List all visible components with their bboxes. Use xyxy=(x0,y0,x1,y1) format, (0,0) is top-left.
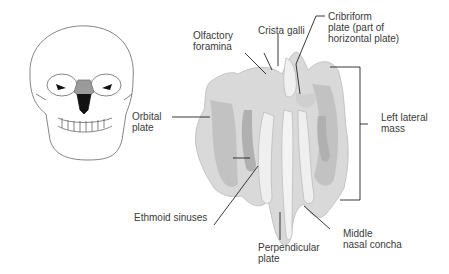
label-line: Cribriform xyxy=(328,11,399,22)
label-line: Orbital xyxy=(132,111,161,122)
label-line: nasal concha xyxy=(343,239,402,250)
label-ethmoid-sinuses: Ethmoid sinuses xyxy=(134,212,207,223)
label-line: horizontal plate) xyxy=(328,33,399,44)
label-cribriform-plate: Cribriform plate (part of horizontal pla… xyxy=(328,11,399,44)
label-line: Crista galli xyxy=(258,25,305,36)
label-orbital-plate: Orbital plate xyxy=(132,111,161,133)
label-perpendicular-plate: Perpendicular plate xyxy=(258,242,320,264)
label-olfactory-foramina: Olfactory foramina xyxy=(193,30,233,52)
label-line: plate (part of xyxy=(328,22,399,33)
label-line: Left lateral xyxy=(381,112,428,123)
label-line: Olfactory xyxy=(193,30,233,41)
label-line: plate xyxy=(258,253,320,264)
label-middle-nasal-concha: Middle nasal concha xyxy=(343,228,402,250)
label-line: Ethmoid sinuses xyxy=(134,212,207,223)
ethmoid-bone-illustration xyxy=(195,52,348,245)
label-line: Perpendicular xyxy=(258,242,320,253)
label-left-lateral-mass: Left lateral mass xyxy=(381,112,428,134)
skull-thumbnail-icon xyxy=(30,26,133,160)
label-line: Middle xyxy=(343,228,402,239)
label-crista-galli: Crista galli xyxy=(258,25,305,36)
label-line: mass xyxy=(381,123,428,134)
label-line: foramina xyxy=(193,41,233,52)
label-line: plate xyxy=(132,122,161,133)
